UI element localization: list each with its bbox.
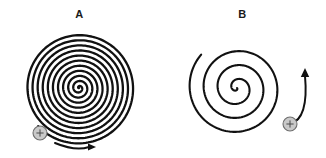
- spiral-b-start-marker: [283, 117, 297, 131]
- spiral-b-curve: [190, 51, 278, 132]
- spiral-b-arrow-shaft: [290, 76, 306, 124]
- spiral-figure: A B: [0, 0, 326, 158]
- panel-b: B: [163, 0, 326, 158]
- spiral-b-direction-arrow: [290, 68, 309, 124]
- panel-a: A: [0, 0, 163, 158]
- spiral-b-arrow-head: [301, 68, 309, 77]
- panel-b-drawing: [163, 0, 326, 158]
- spiral-a-arrow-head: [88, 143, 96, 150]
- panel-a-drawing: [0, 0, 163, 158]
- spiral-a-start-marker: [33, 126, 47, 140]
